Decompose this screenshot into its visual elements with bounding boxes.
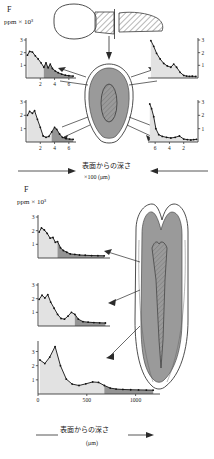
svg-text:2: 2 bbox=[32, 363, 35, 369]
svg-text:2: 2 bbox=[20, 112, 23, 118]
upper-axis-unit: ×100 (μm) bbox=[84, 174, 110, 180]
svg-text:6: 6 bbox=[68, 145, 71, 151]
svg-text:500: 500 bbox=[83, 397, 92, 403]
svg-text:1: 1 bbox=[20, 62, 23, 68]
svg-text:4: 4 bbox=[168, 145, 171, 151]
svg-text:0: 0 bbox=[37, 397, 40, 403]
lower-axis-caption: 表面からの深さ bbox=[60, 427, 109, 434]
svg-text:3: 3 bbox=[20, 99, 23, 105]
upper-caption-arrow-right bbox=[150, 166, 208, 176]
figure-root: F ppm × 10³ bbox=[0, 0, 214, 459]
svg-text:3: 3 bbox=[32, 282, 35, 288]
lower-axis-label-ppm: ppm × 10³ bbox=[17, 199, 46, 206]
upper-axis-symbol-F: F bbox=[7, 6, 11, 14]
svg-text:2: 2 bbox=[201, 112, 204, 118]
chart-upper-left: 123246 bbox=[14, 36, 78, 86]
svg-text:2: 2 bbox=[39, 145, 42, 151]
svg-text:3: 3 bbox=[32, 349, 35, 355]
svg-text:6: 6 bbox=[154, 145, 157, 151]
svg-text:2: 2 bbox=[201, 50, 204, 56]
svg-text:6: 6 bbox=[68, 81, 71, 87]
svg-text:4: 4 bbox=[53, 145, 56, 151]
svg-text:2: 2 bbox=[32, 228, 35, 234]
svg-text:1: 1 bbox=[32, 377, 35, 383]
chart-lower-panel-top: 123 bbox=[22, 212, 114, 264]
chart-upper-right: 123 bbox=[146, 36, 210, 86]
chart-lower-right: 123642 bbox=[146, 98, 210, 154]
svg-text:3: 3 bbox=[201, 37, 204, 43]
svg-text:3: 3 bbox=[32, 214, 35, 220]
chart-lower-left: 123246 bbox=[14, 98, 78, 154]
upper-axis-caption: 表面からの深さ bbox=[82, 163, 131, 170]
upper-caption-arrow-left bbox=[18, 166, 78, 176]
svg-text:1: 1 bbox=[20, 126, 23, 132]
svg-text:1: 1 bbox=[201, 62, 204, 68]
chart-lower-panel-bottom: 12305001000 bbox=[22, 338, 164, 408]
svg-text:1: 1 bbox=[32, 309, 35, 315]
upper-axis-label-ppm: ppm × 10³ bbox=[4, 19, 33, 26]
svg-text:3: 3 bbox=[201, 99, 204, 105]
lower-axis-unit: (μm) bbox=[86, 440, 98, 446]
svg-text:2: 2 bbox=[182, 145, 185, 151]
svg-text:2: 2 bbox=[20, 50, 23, 56]
svg-text:3: 3 bbox=[20, 37, 23, 43]
svg-text:2: 2 bbox=[32, 296, 35, 302]
svg-text:4: 4 bbox=[53, 81, 56, 87]
svg-text:1000: 1000 bbox=[130, 397, 141, 403]
svg-text:1: 1 bbox=[201, 126, 204, 132]
svg-text:2: 2 bbox=[39, 81, 42, 87]
svg-text:1: 1 bbox=[32, 241, 35, 247]
chart-lower-panel-middle: 123 bbox=[22, 280, 114, 332]
lower-axis-symbol-F: F bbox=[24, 186, 28, 194]
